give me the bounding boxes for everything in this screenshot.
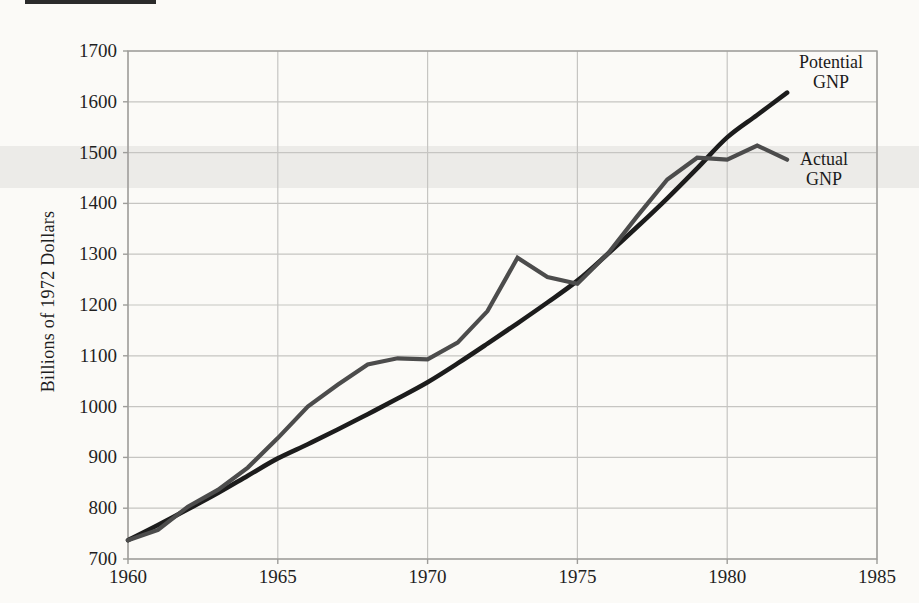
legend-potential-gnp: Potential GNP — [789, 52, 873, 92]
y-axis-title: Billions of 1972 Dollars — [38, 192, 59, 412]
y-tick-label: 1400 — [79, 192, 117, 213]
legend-actual-line2: GNP — [787, 169, 861, 189]
x-tick-label: 1960 — [109, 566, 147, 587]
x-tick-label: 1975 — [558, 566, 596, 587]
legend-potential-line1: Potential — [789, 52, 873, 72]
y-tick-label: 1600 — [79, 91, 117, 112]
x-tick-label: 1980 — [708, 566, 746, 587]
legend-actual-gnp: Actual GNP — [787, 149, 861, 189]
legend-actual-line1: Actual — [787, 149, 861, 169]
y-tick-label: 1700 — [79, 40, 117, 61]
y-tick-label: 1000 — [79, 396, 117, 417]
potential-gnp-line — [128, 93, 787, 541]
x-tick-label: 1965 — [259, 566, 297, 587]
y-tick-label: 1200 — [79, 294, 117, 315]
y-tick-label: 900 — [89, 446, 118, 467]
x-tick-label: 1985 — [858, 566, 896, 587]
gnp-line-chart: 7008009001000110012001300140015001600170… — [0, 0, 919, 603]
actual-gnp-line — [128, 146, 787, 541]
legend-potential-line2: GNP — [789, 72, 873, 92]
figure: 7008009001000110012001300140015001600170… — [0, 0, 919, 603]
x-tick-label: 1970 — [409, 566, 447, 587]
y-tick-label: 1500 — [79, 142, 117, 163]
y-tick-label: 800 — [89, 497, 118, 518]
y-tick-label: 1100 — [80, 345, 117, 366]
y-tick-label: 1300 — [79, 243, 117, 264]
